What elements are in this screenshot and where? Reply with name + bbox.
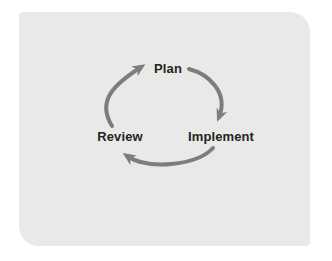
node-label-review: Review — [97, 129, 142, 144]
arrow-plan-to-implement — [189, 69, 222, 117]
arrow-review-to-plan — [106, 67, 141, 126]
node-label-plan: Plan — [154, 61, 182, 76]
arrow-implement-to-review — [127, 148, 213, 164]
cycle-arrows-graphic — [0, 0, 332, 261]
node-label-implement: Implement — [188, 129, 254, 144]
page: { "diagram": { "type": "cycle", "nodes":… — [0, 0, 332, 261]
